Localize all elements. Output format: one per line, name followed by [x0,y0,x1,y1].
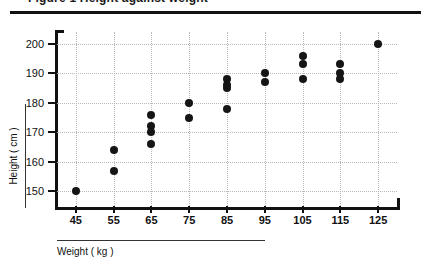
x-axis-tick-label: 95 [259,214,271,226]
gridline-vertical [76,32,77,206]
clipped-header-text: Figure 1 Height against weight [28,0,208,5]
scatter-point [336,60,344,68]
x-axis-tick [264,206,266,213]
y-axis-tick-label: 150 [26,185,44,197]
scatter-point [261,69,269,77]
gridline-horizontal [57,162,397,163]
y-axis-tick-label: 160 [26,156,44,168]
y-axis-title: Height ( cm ) [8,127,19,184]
gridline-horizontal [57,132,397,133]
x-axis-tick [226,206,228,213]
y-axis-title-container: Height ( cm ) [6,104,20,208]
y-axis-title-rule [25,104,26,208]
scatter-point [223,105,231,113]
x-axis-title-rule [57,240,265,241]
gridline-horizontal [57,103,397,104]
scatter-point [110,167,118,175]
x-axis-tick [377,206,379,213]
x-axis-tick-label: 55 [108,214,120,226]
x-axis-title: Weight ( kg ) [57,246,114,257]
gridline-horizontal [57,191,397,192]
x-axis-tick [150,206,152,213]
scatter-point [110,146,118,154]
gridline-horizontal [57,73,397,74]
x-axis-tick-label: 85 [221,214,233,226]
scatter-point [147,122,155,130]
scatter-point [223,75,231,83]
y-axis-tick [48,190,55,192]
y-axis-tick [48,161,55,163]
scatter-point [299,75,307,83]
scatter-point [147,140,155,148]
x-axis-tick-label: 65 [145,214,157,226]
x-axis-tick [113,206,115,213]
header-divider [10,11,421,14]
scatter-point [299,52,307,60]
x-axis-tick-label: 75 [183,214,195,226]
gridline-vertical [378,32,379,206]
scatter-point [185,99,193,107]
x-axis-tick [339,206,341,213]
gridline-vertical [151,32,152,206]
scatter-point [374,40,382,48]
scatter-point [299,60,307,68]
x-axis-tick [75,206,77,213]
x-axis-tick-label: 115 [331,214,349,226]
scatter-point [261,78,269,86]
scatter-point [185,114,193,122]
y-axis-tick [48,43,55,45]
scatter-point [72,187,80,195]
gridline-horizontal [57,44,397,45]
y-axis-tick-label: 190 [26,67,44,79]
gridline-vertical [227,32,228,206]
x-axis-tick [188,206,190,213]
y-axis-tick [48,131,55,133]
x-axis-tick-label: 105 [293,214,311,226]
y-axis-tick-label: 200 [26,38,44,50]
x-axis-tick-label: 45 [70,214,82,226]
x-axis-tick-label: 125 [369,214,387,226]
y-axis-tick-label: 170 [26,126,44,138]
scatter-point [147,111,155,119]
gridline-vertical [265,32,266,206]
gridline-vertical [114,32,115,206]
x-axis-tick [302,206,304,213]
chart-screenshot: Figure 1 Height against weight 455565758… [0,0,431,273]
y-axis-tick [48,72,55,74]
gridline-vertical [340,32,341,206]
y-axis-tick [48,102,55,104]
x-axis-end-cap [397,198,400,210]
scatter-point [336,69,344,77]
plot-area: 455565758595105115125150160170180190200 [57,32,397,206]
y-axis-tick-label: 180 [26,97,44,109]
